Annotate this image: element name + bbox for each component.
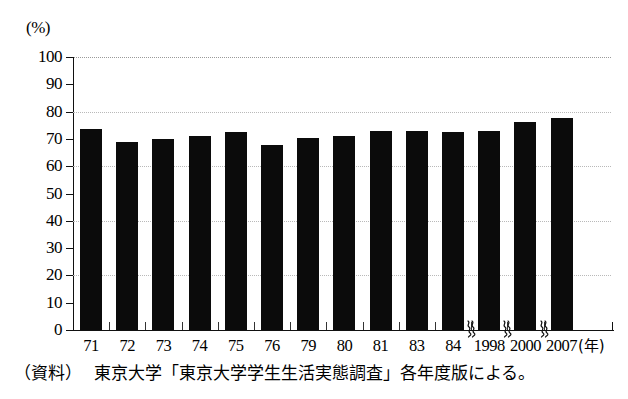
bar <box>297 138 319 330</box>
y-axis-tick <box>66 248 74 249</box>
y-axis-tick-label: 80 <box>46 103 62 120</box>
y-axis-tick <box>66 57 74 58</box>
x-axis-tick <box>326 322 327 330</box>
source-note: （資料）東京大学「東京大学学生生活実態調査」各年度版による。 <box>14 362 535 384</box>
bar <box>116 142 138 330</box>
axis-break-squiggle-icon <box>501 320 513 338</box>
x-axis-unit-label: (年) <box>578 337 605 355</box>
bar <box>261 145 283 330</box>
bar <box>225 132 247 330</box>
y-axis-tick-label: 50 <box>46 185 62 202</box>
x-axis-tick <box>145 322 146 330</box>
x-axis-tick <box>109 322 110 330</box>
bar <box>189 136 211 330</box>
y-axis-tick <box>66 194 74 195</box>
bar <box>514 122 536 330</box>
bar <box>333 136 355 330</box>
bar <box>370 131 392 330</box>
axis-break-squiggle-icon <box>538 320 550 338</box>
y-axis-tick-label: 40 <box>46 212 62 229</box>
y-axis-unit-label: (%) <box>26 18 50 38</box>
y-axis-tick <box>66 139 74 140</box>
bar <box>406 131 428 330</box>
y-axis-tick-label: 30 <box>46 239 62 256</box>
x-axis-tick <box>182 322 183 330</box>
x-axis-tick <box>290 322 291 330</box>
y-axis-tick-label: 10 <box>46 294 62 311</box>
source-note-tag: （資料） <box>14 363 82 383</box>
bar <box>80 129 102 330</box>
bar-chart-figure: (%) 0102030405060708090100 7172737475767… <box>0 0 628 399</box>
source-note-text: 東京大学「東京大学学生生活実態調査」各年度版による。 <box>94 363 535 383</box>
y-axis-tick-label: 100 <box>38 48 62 65</box>
y-axis-tick-label: 70 <box>46 130 62 147</box>
x-axis-tick <box>254 322 255 330</box>
y-axis-tick-label: 20 <box>46 266 62 283</box>
bar <box>551 118 573 330</box>
bar <box>152 139 174 330</box>
x-axis-tick <box>399 322 400 330</box>
x-axis-tick <box>363 322 364 330</box>
y-axis-tick <box>66 330 74 331</box>
y-axis-tick-label: 60 <box>46 157 62 174</box>
x-axis-tick <box>218 322 219 330</box>
y-axis-tick <box>66 84 74 85</box>
bar <box>478 131 500 330</box>
axis-break-squiggle-icon <box>465 320 477 338</box>
bar <box>442 132 464 330</box>
x-axis-tick <box>435 322 436 330</box>
gridline <box>73 112 611 113</box>
y-axis-tick-label: 90 <box>46 75 62 92</box>
y-axis-tick-label: 0 <box>54 321 62 338</box>
y-axis-tick <box>66 303 74 304</box>
x-axis-end-cap <box>612 322 613 331</box>
x-axis-line <box>73 330 614 331</box>
